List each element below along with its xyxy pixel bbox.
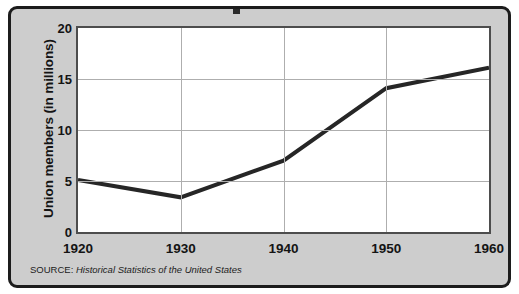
cropped-title-fragment — [233, 9, 240, 14]
plot-area — [76, 26, 491, 234]
x-tick-label: 1940 — [249, 241, 319, 256]
y-tick-label: 0 — [32, 225, 72, 240]
plot-inner — [78, 28, 489, 232]
source-label: SOURCE: — [30, 264, 73, 275]
gridline-horizontal — [78, 130, 489, 131]
y-tick-label: 20 — [32, 21, 72, 36]
x-tick-label: 1960 — [454, 241, 519, 256]
x-axis-tick-labels: 19201930194019501960 — [76, 241, 491, 261]
y-tick-label: 5 — [32, 174, 72, 189]
x-tick-label: 1950 — [351, 241, 421, 256]
y-axis-tick-labels: 05101520 — [30, 26, 72, 234]
chart-figure-panel: Union members (in millions) 05101520 192… — [8, 6, 511, 288]
x-tick-label: 1920 — [43, 241, 113, 256]
source-note: SOURCE: Historical Statistics of the Uni… — [30, 264, 242, 275]
y-tick-label: 15 — [32, 72, 72, 87]
gridline-horizontal — [78, 79, 489, 80]
source-title: Historical Statistics of the United Stat… — [76, 264, 242, 275]
x-tick-label: 1930 — [146, 241, 216, 256]
y-tick-label: 10 — [32, 123, 72, 138]
gridline-horizontal — [78, 181, 489, 182]
